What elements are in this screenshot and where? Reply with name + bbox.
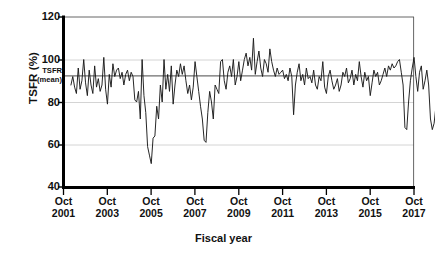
x-axis-title-text: Fiscal year	[183, 232, 252, 244]
x-tick-label-8: Oct 2017	[386, 196, 435, 219]
chart-figure: TSFR (%) 120 100 80 60 40 TSFR (mean)	[0, 0, 435, 254]
x-axis-title: Fiscal year	[0, 232, 435, 244]
x-tick-8-year: 2017	[386, 208, 435, 220]
x-axis-tick-labels: Oct 2001 Oct 2003 Oct 2005 Oct 2007 Oct …	[0, 191, 435, 231]
x-tick-8-month: Oct	[386, 196, 435, 208]
plot-frame	[62, 16, 415, 189]
